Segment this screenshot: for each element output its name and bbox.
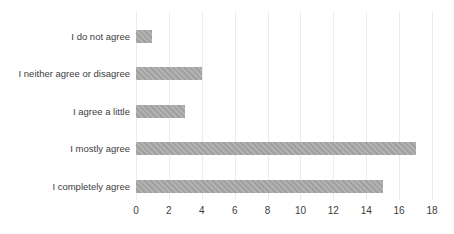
bar-i-neither-agree-or-disagree [136,67,202,80]
category-label: I completely agree [0,180,130,193]
x-axis-tick-label: 4 [190,205,214,217]
bar-i-mostly-agree [136,142,416,155]
gridline [399,12,400,200]
x-axis-tick-label: 12 [321,205,345,217]
bar-i-agree-a-little [136,105,185,118]
gridline [432,12,433,200]
category-label: I do not agree [0,30,130,43]
x-axis-tick-label: 14 [354,205,378,217]
gridline [366,12,367,200]
category-label: I neither agree or disagree [0,67,130,80]
category-label: I agree a little [0,105,130,118]
x-axis-tick-label: 10 [288,205,312,217]
bar-i-completely-agree [136,180,383,193]
x-axis-tick-label: 0 [124,205,148,217]
gridline [333,12,334,200]
bar-i-do-not-agree [136,30,152,43]
bar-chart: 024681012141618I do not agreeI neither a… [0,0,454,234]
gridline [202,12,203,200]
x-axis-tick-label: 16 [387,205,411,217]
x-axis-tick-label: 18 [420,205,444,217]
gridline [268,12,269,200]
gridline [235,12,236,200]
category-label: I mostly agree [0,142,130,155]
gridline [300,12,301,200]
x-axis-tick-label: 8 [256,205,280,217]
x-axis-tick-label: 2 [157,205,181,217]
x-axis-tick-label: 6 [223,205,247,217]
